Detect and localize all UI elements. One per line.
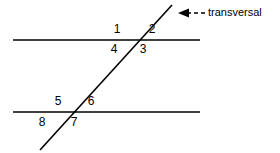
angle-label-5: 5 bbox=[51, 95, 65, 107]
arrow-left-icon bbox=[178, 9, 189, 18]
angle-label-4: 4 bbox=[107, 43, 121, 55]
angle-label-1: 1 bbox=[110, 23, 124, 35]
transversal-figure: 1 2 3 4 5 6 7 8 transversal bbox=[0, 0, 280, 153]
angle-label-8: 8 bbox=[35, 116, 49, 128]
geometry-diagram-svg bbox=[0, 0, 280, 153]
angle-label-6: 6 bbox=[84, 95, 98, 107]
angle-label-3: 3 bbox=[136, 43, 150, 55]
angle-label-7: 7 bbox=[67, 116, 81, 128]
transversal-callout-label: transversal bbox=[208, 6, 262, 18]
angle-label-2: 2 bbox=[145, 23, 159, 35]
